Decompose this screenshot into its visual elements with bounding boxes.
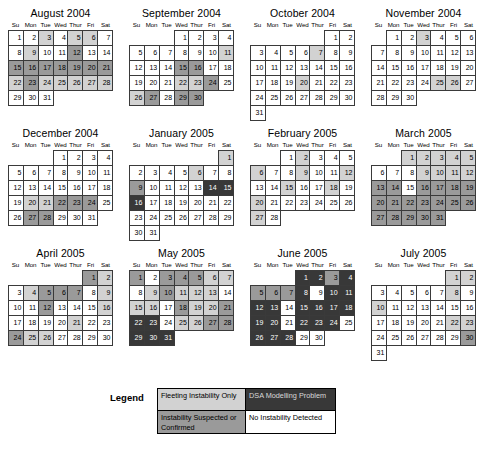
- day-cell[interactable]: 23: [340, 76, 355, 91]
- day-cell[interactable]: 15: [174, 61, 189, 76]
- day-cell[interactable]: 15: [325, 61, 340, 76]
- day-cell[interactable]: 6: [53, 286, 68, 301]
- day-cell[interactable]: 31: [144, 226, 159, 241]
- day-cell[interactable]: 9: [68, 166, 83, 181]
- day-cell[interactable]: 15: [401, 181, 416, 196]
- day-cell[interactable]: 23: [401, 76, 416, 91]
- day-cell[interactable]: 27: [461, 76, 476, 91]
- day-cell[interactable]: 12: [280, 61, 295, 76]
- day-cell[interactable]: 6: [83, 31, 98, 46]
- day-cell[interactable]: 23: [295, 196, 310, 211]
- day-cell[interactable]: 13: [189, 181, 204, 196]
- day-cell[interactable]: 4: [159, 166, 174, 181]
- day-cell[interactable]: 1: [386, 31, 401, 46]
- day-cell[interactable]: 21: [265, 196, 280, 211]
- day-cell[interactable]: 29: [401, 211, 416, 226]
- day-cell[interactable]: 9: [130, 181, 145, 196]
- day-cell[interactable]: 9: [98, 286, 113, 301]
- day-cell[interactable]: 11: [340, 286, 355, 301]
- day-cell[interactable]: 14: [265, 181, 280, 196]
- day-cell[interactable]: 29: [325, 91, 340, 106]
- day-cell[interactable]: 11: [386, 301, 401, 316]
- day-cell[interactable]: 18: [174, 301, 189, 316]
- day-cell[interactable]: 23: [23, 76, 38, 91]
- day-cell[interactable]: 7: [204, 166, 219, 181]
- day-cell[interactable]: 28: [159, 91, 174, 106]
- day-cell[interactable]: 22: [325, 76, 340, 91]
- day-cell[interactable]: 11: [53, 46, 68, 61]
- day-cell[interactable]: 8: [325, 46, 340, 61]
- day-cell[interactable]: 27: [144, 91, 159, 106]
- day-cell[interactable]: 5: [280, 46, 295, 61]
- day-cell[interactable]: 7: [219, 271, 234, 286]
- day-cell[interactable]: 20: [53, 316, 68, 331]
- day-cell[interactable]: 18: [325, 181, 340, 196]
- day-cell[interactable]: 30: [310, 331, 325, 346]
- day-cell[interactable]: 25: [340, 316, 355, 331]
- day-cell[interactable]: 22: [295, 316, 310, 331]
- day-cell[interactable]: 21: [386, 196, 401, 211]
- day-cell[interactable]: 27: [23, 211, 38, 226]
- day-cell[interactable]: 24: [310, 196, 325, 211]
- day-cell[interactable]: 14: [372, 61, 387, 76]
- day-cell[interactable]: 5: [189, 271, 204, 286]
- day-cell[interactable]: 19: [251, 316, 266, 331]
- day-cell[interactable]: 27: [416, 331, 431, 346]
- day-cell[interactable]: 23: [130, 211, 145, 226]
- day-cell[interactable]: 2: [295, 151, 310, 166]
- day-cell[interactable]: 21: [159, 76, 174, 91]
- day-cell[interactable]: 6: [372, 166, 387, 181]
- day-cell[interactable]: 26: [38, 331, 53, 346]
- day-cell[interactable]: 12: [68, 46, 83, 61]
- day-cell[interactable]: 22: [174, 76, 189, 91]
- day-cell[interactable]: 28: [68, 331, 83, 346]
- day-cell[interactable]: 7: [372, 46, 387, 61]
- day-cell[interactable]: 8: [9, 46, 24, 61]
- day-cell[interactable]: 17: [416, 61, 431, 76]
- day-cell[interactable]: 31: [159, 331, 174, 346]
- day-cell[interactable]: 17: [251, 76, 266, 91]
- day-cell[interactable]: 8: [219, 166, 234, 181]
- day-cell[interactable]: 3: [83, 151, 98, 166]
- day-cell[interactable]: 21: [280, 316, 295, 331]
- day-cell[interactable]: 8: [386, 46, 401, 61]
- day-cell[interactable]: 9: [416, 166, 431, 181]
- day-cell[interactable]: 9: [189, 46, 204, 61]
- day-cell[interactable]: 17: [372, 316, 387, 331]
- day-cell[interactable]: 5: [340, 151, 355, 166]
- day-cell[interactable]: 1: [9, 31, 24, 46]
- day-cell[interactable]: 12: [401, 301, 416, 316]
- day-cell[interactable]: 28: [219, 316, 234, 331]
- day-cell[interactable]: 31: [372, 346, 387, 361]
- day-cell[interactable]: 6: [251, 166, 266, 181]
- day-cell[interactable]: 18: [446, 181, 461, 196]
- day-cell[interactable]: 9: [144, 286, 159, 301]
- day-cell[interactable]: 24: [325, 316, 340, 331]
- day-cell[interactable]: 29: [83, 331, 98, 346]
- day-cell[interactable]: 2: [68, 151, 83, 166]
- day-cell[interactable]: 28: [280, 331, 295, 346]
- day-cell[interactable]: 13: [416, 301, 431, 316]
- day-cell[interactable]: 22: [53, 196, 68, 211]
- day-cell[interactable]: 18: [98, 181, 113, 196]
- day-cell[interactable]: 8: [280, 166, 295, 181]
- day-cell[interactable]: 22: [83, 316, 98, 331]
- day-cell[interactable]: 31: [83, 211, 98, 226]
- day-cell[interactable]: 15: [280, 181, 295, 196]
- day-cell[interactable]: 14: [204, 181, 219, 196]
- day-cell[interactable]: 5: [461, 151, 476, 166]
- day-cell[interactable]: 25: [174, 316, 189, 331]
- day-cell[interactable]: 28: [431, 331, 446, 346]
- day-cell[interactable]: 12: [174, 181, 189, 196]
- day-cell[interactable]: 15: [9, 61, 24, 76]
- day-cell[interactable]: 7: [98, 31, 113, 46]
- day-cell[interactable]: 15: [83, 301, 98, 316]
- day-cell[interactable]: 26: [68, 76, 83, 91]
- day-cell[interactable]: 6: [144, 46, 159, 61]
- day-cell[interactable]: 23: [310, 316, 325, 331]
- day-cell[interactable]: 5: [174, 166, 189, 181]
- day-cell[interactable]: 2: [130, 166, 145, 181]
- day-cell[interactable]: 4: [53, 31, 68, 46]
- day-cell[interactable]: 10: [9, 301, 24, 316]
- day-cell[interactable]: 30: [401, 91, 416, 106]
